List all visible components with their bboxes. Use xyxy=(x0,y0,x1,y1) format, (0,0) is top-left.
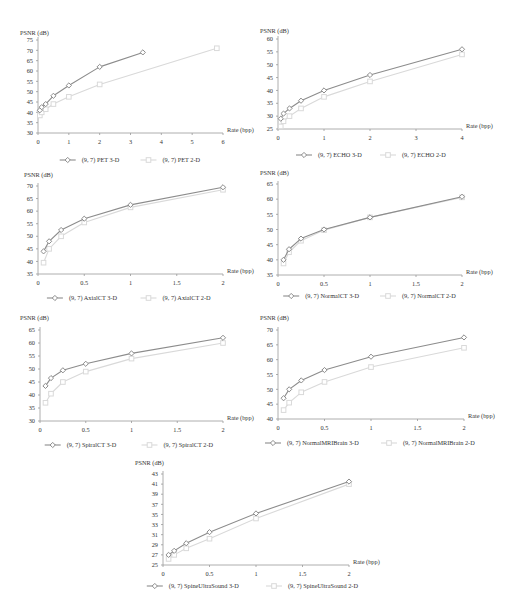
data-point-marker xyxy=(221,341,226,346)
y-tick-label: 60 xyxy=(29,339,35,346)
data-point-marker xyxy=(184,541,189,546)
series-2d xyxy=(278,52,464,129)
x-tick-label: 2 xyxy=(221,426,224,433)
data-point-marker xyxy=(97,64,102,69)
x-tick-label: 3 xyxy=(129,138,132,145)
data-point-marker xyxy=(462,346,467,351)
x-axis-label: Rate (bpp) xyxy=(466,122,493,130)
data-point-marker xyxy=(207,530,212,535)
x-tick-label: 0 xyxy=(276,134,279,141)
x-tick-label: 2 xyxy=(347,570,350,577)
x-tick-label: 0 xyxy=(36,279,39,286)
data-point-marker xyxy=(368,354,373,359)
y-tick-label: 50 xyxy=(29,365,35,372)
data-point-marker xyxy=(97,82,102,87)
legend-label: (9, 7) SpineUltraSound 2-D xyxy=(288,582,358,590)
data-point-marker xyxy=(41,260,46,265)
axes xyxy=(276,327,464,421)
data-point-marker xyxy=(41,249,46,254)
y-tick-label: 35 xyxy=(27,119,33,126)
y-tick-label: 65 xyxy=(27,57,33,64)
data-point-marker xyxy=(299,106,304,111)
x-tick-label: 6 xyxy=(221,138,224,145)
data-point-marker xyxy=(322,367,327,372)
data-point-marker xyxy=(184,546,189,551)
legend-label: (9, 7) ECHO 3-D xyxy=(318,151,362,159)
y-tick-label: 30 xyxy=(27,129,33,136)
y-tick-label: 60 xyxy=(27,207,33,214)
y-axis-label: PSNR (dB) xyxy=(24,171,53,179)
series-2d xyxy=(281,346,466,413)
y-tick-label: 60 xyxy=(27,67,33,74)
data-point-marker xyxy=(129,351,134,356)
data-point-marker xyxy=(49,391,54,396)
legend-label: (9, 7) SpiralCT 2-D xyxy=(164,441,214,449)
y-tick-label: 70 xyxy=(267,326,273,333)
y-tick-label: 39 xyxy=(152,490,158,497)
x-axis-label: Rate (bpp) xyxy=(468,412,495,420)
y-tick-label: 35 xyxy=(267,271,273,278)
legend: (9, 7) SpineUltraSound 3-D(9, 7) SpineUl… xyxy=(147,582,359,590)
y-tick-label: 60 xyxy=(267,195,273,202)
y-tick-label: 30 xyxy=(29,417,35,424)
y-tick-label: 65 xyxy=(29,326,35,333)
data-point-marker xyxy=(61,380,66,385)
data-point-marker xyxy=(459,47,464,52)
x-tick-label: 1.5 xyxy=(412,280,420,287)
data-point-marker xyxy=(220,335,225,340)
x-tick-label: 2 xyxy=(368,134,371,141)
y-tick-label: 27 xyxy=(152,551,158,558)
y-tick-label: 43 xyxy=(152,470,158,477)
chart-pet: PSNR (dB)303540455055606570750123456Rate… xyxy=(0,2,261,152)
data-point-marker xyxy=(278,124,283,129)
x-tick-label: 5 xyxy=(191,138,194,145)
x-tick-label: 1.5 xyxy=(414,424,422,431)
data-point-marker xyxy=(83,361,88,366)
data-point-marker xyxy=(215,46,220,51)
x-tick-label: 1.5 xyxy=(299,570,307,577)
data-point-marker xyxy=(369,365,374,370)
legend: (9, 7) PET 3-D(9, 7) PET 2-D xyxy=(60,156,201,164)
legend-diamond-icon xyxy=(289,293,294,298)
legend-square-icon xyxy=(386,294,391,299)
x-tick-label: 4 xyxy=(460,134,464,141)
data-point-marker xyxy=(461,335,466,340)
y-tick-label: 41 xyxy=(152,480,158,487)
data-point-marker xyxy=(299,390,304,395)
y-tick-label: 50 xyxy=(267,226,273,233)
data-point-marker xyxy=(253,511,258,516)
data-point-marker xyxy=(254,516,259,521)
x-tick-label: 1.5 xyxy=(173,279,181,286)
y-tick-label: 55 xyxy=(267,211,273,218)
y-tick-label: 50 xyxy=(27,88,33,95)
legend-label: (9, 7) NormalMRIBrain 3-D xyxy=(287,439,359,447)
x-tick-label: 1 xyxy=(368,280,371,287)
x-tick-label: 1 xyxy=(67,138,70,145)
y-tick-label: 45 xyxy=(267,400,273,407)
y-axis-label: PSNR (dB) xyxy=(20,314,49,322)
legend-square-icon xyxy=(386,153,391,158)
data-point-marker xyxy=(43,401,48,406)
legend: (9, 7) SpiralCT 3-D(9, 7) SpiralCT 2-D xyxy=(45,441,214,449)
legend-label: (9, 7) NormalCT 2-D xyxy=(402,292,456,300)
y-tick-label: 35 xyxy=(152,511,158,518)
data-point-marker xyxy=(67,95,72,100)
data-point-marker xyxy=(287,400,292,405)
series-2d xyxy=(166,482,351,561)
legend-square-icon xyxy=(387,441,392,446)
y-tick-label: 29 xyxy=(152,541,158,548)
y-tick-label: 40 xyxy=(267,256,273,263)
y-tick-label: 25 xyxy=(267,125,273,132)
y-tick-label: 55 xyxy=(29,352,35,359)
y-tick-label: 40 xyxy=(27,109,33,116)
x-axis-label: Rate (bpp) xyxy=(227,267,254,275)
data-point-marker xyxy=(287,114,292,119)
y-tick-label: 70 xyxy=(27,47,33,54)
legend-label: (9, 7) SpiralCT 3-D xyxy=(67,441,117,449)
x-axis-label: Rate (bpp) xyxy=(353,558,380,566)
data-point-marker xyxy=(281,396,286,401)
legend-square-icon xyxy=(146,296,151,301)
legend-diamond-icon xyxy=(52,295,57,300)
x-tick-label: 0 xyxy=(161,570,164,577)
legend-label: (9, 7) ECHO 2-D xyxy=(402,151,446,159)
